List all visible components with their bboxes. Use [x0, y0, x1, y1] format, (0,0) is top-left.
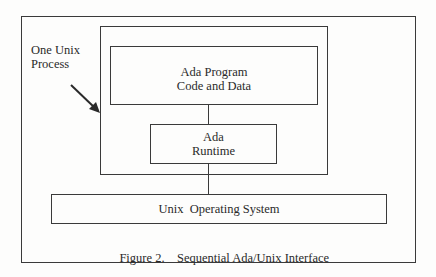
unix-os-box: Unix Operating System: [51, 194, 387, 224]
figure-caption-title: Sequential Ada/Unix Interface: [177, 251, 329, 265]
ada-program-label-line2: Code and Data: [111, 79, 317, 93]
figure-caption: Figure 2. Sequential Ada/Unix Interface: [0, 237, 436, 277]
connector-runtime-os: [208, 163, 209, 195]
connector-program-runtime: [208, 104, 209, 125]
ada-runtime-label-line2: Runtime: [151, 144, 276, 158]
unix-os-label: Unix Operating System: [52, 202, 386, 216]
ada-program-box: Ada Program Code and Data: [110, 46, 318, 105]
ada-runtime-box: Ada Runtime: [150, 124, 277, 164]
ada-program-label-line1: Ada Program: [111, 65, 317, 79]
diagram-canvas: One Unix Process Ada Program Code and Da…: [0, 0, 436, 277]
ada-runtime-label-line1: Ada: [151, 130, 276, 144]
figure-caption-number: Figure 2.: [119, 251, 164, 265]
